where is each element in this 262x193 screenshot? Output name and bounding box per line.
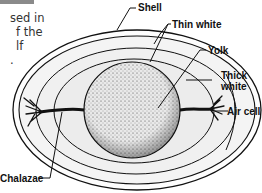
label-thick-white-1: Thick — [221, 70, 248, 81]
label-air-cell: Air cell — [227, 106, 261, 117]
label-shell: Shell — [138, 2, 162, 13]
label-thick-white-2: white — [220, 81, 247, 92]
label-chalazae: Chalazae — [0, 173, 44, 184]
label-thin-white: Thin white — [172, 19, 222, 30]
yolk — [84, 62, 180, 158]
egg-diagram: Shell Thin white Yolk Thick white Air ce… — [0, 0, 262, 193]
label-yolk: Yolk — [208, 45, 229, 56]
